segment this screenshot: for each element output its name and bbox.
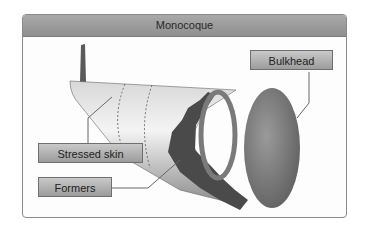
formers-label: Formers (38, 177, 112, 197)
tail-fin (80, 44, 86, 82)
bulkhead-label: Bulkhead (250, 50, 333, 70)
bulkhead-shape (244, 88, 300, 208)
stressed-skin-label: Stressed skin (38, 143, 143, 163)
ring-former (201, 92, 235, 178)
bulkhead-leader (297, 72, 309, 118)
